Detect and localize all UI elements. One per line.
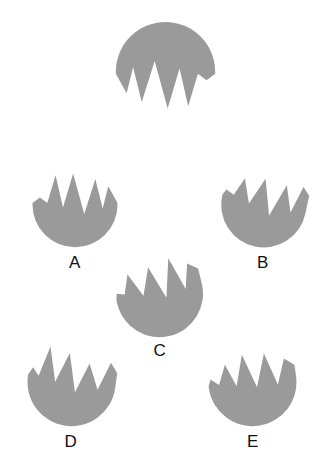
option-e-shape-art[interactable] bbox=[201, 342, 305, 430]
option-e-cell[interactable]: E bbox=[196, 342, 310, 450]
option-e-shape-svg[interactable] bbox=[201, 342, 305, 430]
target-shape-svg bbox=[98, 22, 233, 130]
option-b-shape-path[interactable] bbox=[213, 171, 310, 251]
option-d-shape-art[interactable] bbox=[19, 342, 123, 430]
target-shape-path bbox=[116, 22, 215, 108]
option-b-shape-svg[interactable] bbox=[213, 166, 313, 251]
option-e-label: E bbox=[247, 433, 259, 450]
option-d-label: D bbox=[65, 433, 78, 450]
option-a-shape-svg[interactable] bbox=[25, 166, 125, 251]
option-d-shape-path[interactable] bbox=[22, 344, 120, 430]
option-b-label: B bbox=[257, 254, 269, 271]
option-d-shape-svg[interactable] bbox=[19, 342, 123, 430]
option-a-shape-art[interactable] bbox=[25, 166, 125, 251]
puzzle-canvas: A B C bbox=[0, 0, 333, 470]
option-c-label: C bbox=[154, 342, 167, 359]
option-a-label: A bbox=[69, 254, 81, 271]
option-c-shape-art[interactable] bbox=[109, 252, 211, 339]
option-a-shape-path[interactable] bbox=[33, 173, 118, 247]
target-shape-cell bbox=[98, 22, 233, 130]
option-b-cell[interactable]: B bbox=[208, 166, 318, 271]
option-d-cell[interactable]: D bbox=[14, 342, 128, 450]
option-e-shape-path[interactable] bbox=[205, 348, 302, 430]
target-shape-art bbox=[98, 22, 233, 130]
option-c-shape-svg[interactable] bbox=[109, 252, 211, 339]
option-b-shape-art[interactable] bbox=[213, 166, 313, 251]
option-c-shape-path[interactable] bbox=[110, 252, 211, 339]
